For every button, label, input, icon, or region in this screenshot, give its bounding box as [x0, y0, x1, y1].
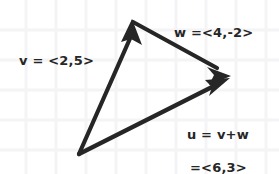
vector-v-arrow: [79, 19, 142, 154]
vector-diagram: v = <2,5> w =<4,-2> u = v+w =<6,3>: [0, 0, 279, 174]
vector-v-label: v = <2,5>: [19, 53, 94, 70]
vector-u-label-line1: u = v+w: [187, 127, 249, 142]
vector-u-label: u = v+w =<6,3>: [168, 110, 249, 174]
vector-w-label: w =<4,-2>: [174, 25, 253, 42]
vector-u-label-line2: =<6,3>: [168, 160, 249, 174]
